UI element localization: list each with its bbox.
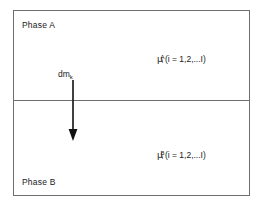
mu-superscript-b: B — [160, 150, 164, 156]
two-phase-equilibrium-diagram: Phase A Phase B μiA(i = 1,2,...I) μiB(i … — [0, 0, 263, 208]
mass-transfer-label-base: dm — [58, 69, 70, 79]
mu-superscript-a: A — [160, 54, 164, 60]
mass-transfer-label-subscript: k — [70, 74, 73, 80]
mu-args-a: (i = 1,2,...I) — [165, 54, 206, 64]
mu-args-b: (i = 1,2,...I) — [165, 150, 206, 160]
phase-boundary-box — [13, 10, 250, 196]
arrow-down-icon — [60, 80, 86, 142]
mass-transfer-label: dmk — [58, 70, 73, 80]
phase-b-label: Phase B — [22, 178, 56, 187]
phase-interface-line — [13, 100, 250, 101]
phase-a-label: Phase A — [22, 21, 55, 30]
phase-b-chemical-potential: μiB(i = 1,2,...I) — [157, 150, 206, 160]
phase-a-chemical-potential: μiA(i = 1,2,...I) — [157, 54, 206, 64]
